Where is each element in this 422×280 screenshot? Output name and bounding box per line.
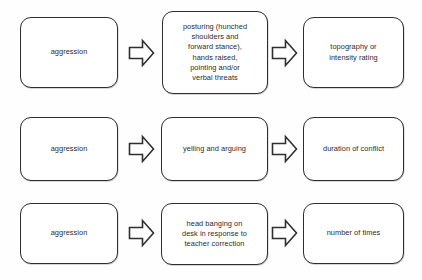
measurement-label-row-1: topography or intensity rating — [329, 42, 377, 62]
behavior-label-row-1: aggression — [51, 47, 88, 57]
definition-box-row-3: head banging on desk in response to teac… — [161, 203, 268, 265]
definition-box-row-2: yelling and arguing — [161, 117, 268, 181]
behavior-box-row-2: aggression — [20, 117, 118, 181]
flow-diagram: aggression posturing (hunched shoulders … — [0, 0, 422, 280]
right-arrow-icon-row-3-second — [271, 218, 298, 248]
behavior-label-row-2: aggression — [51, 144, 88, 154]
definition-label-row-3: head banging on desk in response to teac… — [182, 219, 247, 250]
definition-label-row-2: yelling and arguing — [183, 144, 246, 154]
right-arrow-icon-row-1-second — [271, 38, 298, 68]
behavior-box-row-3: aggression — [20, 203, 118, 264]
measurement-label-row-3: number of times — [327, 228, 381, 238]
measurement-label-row-2: duration of conflict — [323, 144, 384, 154]
right-arrow-icon-row-2-first — [128, 134, 155, 164]
behavior-label-row-3: aggression — [51, 228, 88, 238]
right-arrow-icon-row-2-second — [271, 134, 298, 164]
definition-label-row-1: posturing (hunched shoulders and forward… — [183, 22, 247, 83]
definition-box-row-1: posturing (hunched shoulders and forward… — [162, 11, 268, 94]
measurement-box-row-3: number of times — [303, 203, 404, 264]
measurement-box-row-1: topography or intensity rating — [303, 17, 404, 88]
behavior-box-row-1: aggression — [20, 17, 118, 88]
right-arrow-icon-row-3-first — [128, 218, 155, 248]
right-arrow-icon-row-1-first — [128, 38, 155, 68]
measurement-box-row-2: duration of conflict — [303, 117, 404, 181]
